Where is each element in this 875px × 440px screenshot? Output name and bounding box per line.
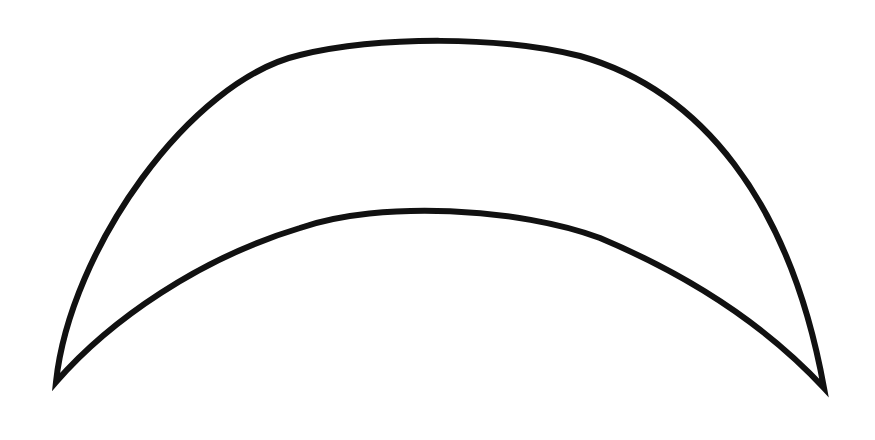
crescent-outline: [56, 41, 824, 388]
diagram-canvas: [0, 0, 875, 440]
crescent-shape-svg: [0, 0, 875, 440]
